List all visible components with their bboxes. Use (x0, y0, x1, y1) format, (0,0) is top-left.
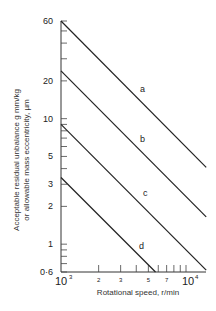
y-tick-label: 5 (48, 151, 53, 161)
series-label-a: a (140, 84, 145, 94)
x-tick-exponent: 3 (69, 274, 73, 280)
y-tick-label: 2 (48, 201, 53, 211)
y-tick-label: 20 (43, 76, 53, 86)
y-axis-label-line1: Acceptable residual unbalance g mm/kg (12, 89, 22, 231)
x-tick-label: 7 (165, 277, 169, 283)
x-tick-exponent: 4 (195, 274, 199, 280)
series-line-d (61, 178, 156, 273)
x-tick-label: 10 (182, 275, 194, 287)
series-label-d: d (139, 241, 144, 251)
y-tick-label: 0·6 (40, 267, 53, 277)
series-label-c: c (143, 188, 148, 198)
series-label-b: b (140, 134, 145, 144)
series-line-c (61, 124, 206, 270)
y-axis-label-line2: or allowable mass eccentricity, µm (22, 89, 32, 231)
y-axis-label: Acceptable residual unbalance g mm/kg or… (4, 60, 40, 260)
x-tick-label: 10 (55, 275, 67, 287)
series-line-b (61, 71, 206, 217)
x-tick-label: 3 (119, 277, 123, 283)
y-tick-label: 1 (48, 239, 53, 249)
y-tick-label: 10 (43, 114, 53, 124)
x-axis-label: Rotational speed, r/min (60, 288, 216, 297)
x-tick-label: 5 (147, 277, 151, 283)
x-tick-label: 2 (97, 277, 101, 283)
series-line-a (61, 21, 206, 167)
y-tick-label: 3 (48, 179, 53, 189)
y-tick-label: 60 (43, 16, 53, 26)
